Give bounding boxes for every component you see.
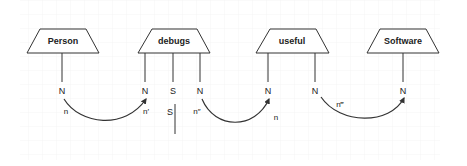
- edge-end-label: n: [274, 113, 278, 122]
- wire-label: S: [167, 107, 173, 117]
- grid-background: [20, 0, 440, 160]
- node-label: useful: [279, 36, 306, 46]
- diagram-canvas: Person N debugs N S N S useful N N Softw…: [0, 0, 467, 166]
- port-label: N: [400, 86, 407, 96]
- port-label: N: [59, 86, 66, 96]
- port-label: N: [197, 86, 204, 96]
- node-label: Software: [384, 36, 422, 46]
- port-label: N: [142, 86, 149, 96]
- node-label: debugs: [158, 36, 190, 46]
- edge-label: n″: [193, 107, 200, 116]
- port-label: S: [170, 86, 176, 96]
- port-label: N: [312, 86, 319, 96]
- port-label: N: [265, 86, 272, 96]
- edge-label: n‴: [336, 100, 343, 109]
- edge-end-label: n′: [143, 107, 149, 116]
- node-label: Person: [48, 36, 79, 46]
- edge-label: n: [64, 107, 68, 116]
